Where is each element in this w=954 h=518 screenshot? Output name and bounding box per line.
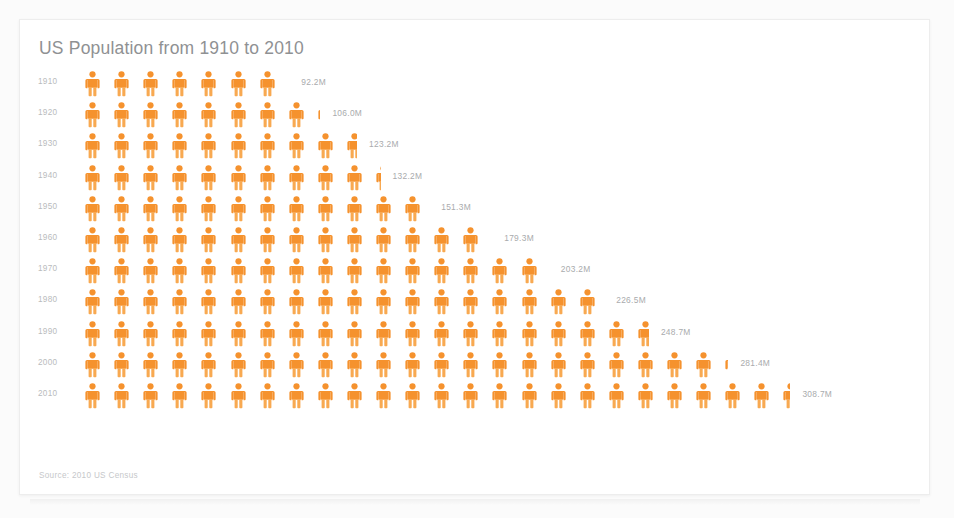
person-icon bbox=[194, 194, 223, 223]
person-icon bbox=[78, 350, 107, 379]
row-year-label: 1960 bbox=[38, 233, 80, 242]
person-icon bbox=[107, 381, 136, 410]
person-icon bbox=[631, 350, 660, 379]
row-year-label: 1940 bbox=[38, 171, 80, 180]
person-icon bbox=[224, 287, 253, 316]
person-icon bbox=[78, 131, 107, 160]
person-icon bbox=[78, 69, 107, 98]
person-icon bbox=[253, 256, 282, 285]
person-icon bbox=[165, 225, 194, 254]
person-icon bbox=[165, 287, 194, 316]
person-icon-partial bbox=[369, 163, 381, 192]
person-icon bbox=[311, 319, 340, 348]
pictogram-row: 1980226.5M bbox=[20, 286, 929, 317]
row-year-label: 2010 bbox=[38, 389, 80, 398]
person-icon bbox=[485, 350, 514, 379]
person-icon bbox=[253, 287, 282, 316]
person-icon bbox=[485, 287, 514, 316]
person-icon bbox=[544, 350, 573, 379]
person-icon bbox=[136, 163, 165, 192]
row-value-label: 281.4M bbox=[740, 358, 770, 368]
row-year-label: 1920 bbox=[38, 108, 80, 117]
person-icon bbox=[747, 381, 776, 410]
person-icon bbox=[107, 163, 136, 192]
person-icon bbox=[398, 287, 427, 316]
screenshot-canvas: US Population from 1910 to 2010 191092.2… bbox=[0, 0, 954, 518]
person-icon bbox=[78, 194, 107, 223]
person-icon bbox=[165, 131, 194, 160]
person-icon bbox=[456, 256, 485, 285]
person-icon bbox=[631, 381, 660, 410]
person-icon bbox=[369, 256, 398, 285]
person-icon bbox=[224, 100, 253, 129]
pictogram-row: 1930123.2M bbox=[20, 130, 929, 161]
person-icon bbox=[689, 381, 718, 410]
pictogram-row: 1940132.2M bbox=[20, 162, 929, 193]
person-icon bbox=[78, 256, 107, 285]
person-icon bbox=[369, 319, 398, 348]
person-icon bbox=[456, 225, 485, 254]
person-icon bbox=[427, 319, 456, 348]
person-icon bbox=[282, 194, 311, 223]
person-icon bbox=[660, 350, 689, 379]
person-icon bbox=[165, 350, 194, 379]
person-icon bbox=[282, 256, 311, 285]
person-icon bbox=[165, 100, 194, 129]
person-icon bbox=[340, 225, 369, 254]
person-icon bbox=[311, 350, 340, 379]
person-icon bbox=[427, 381, 456, 410]
person-icon bbox=[282, 163, 311, 192]
person-icon bbox=[194, 319, 223, 348]
person-icon bbox=[136, 256, 165, 285]
person-icon bbox=[660, 381, 689, 410]
row-value-label: 203.2M bbox=[561, 264, 591, 274]
person-icon-partial bbox=[282, 69, 290, 98]
person-icon-partial bbox=[718, 350, 728, 379]
person-icon bbox=[224, 225, 253, 254]
person-icon bbox=[136, 131, 165, 160]
person-icon bbox=[253, 100, 282, 129]
person-icon bbox=[602, 381, 631, 410]
person-icon-partial bbox=[427, 194, 429, 223]
person-icon bbox=[602, 350, 631, 379]
person-icon bbox=[107, 131, 136, 160]
person-icon bbox=[224, 163, 253, 192]
person-icon bbox=[340, 319, 369, 348]
row-year-label: 1990 bbox=[38, 327, 80, 336]
row-value-label: 248.7M bbox=[661, 327, 691, 337]
row-value-label: 132.2M bbox=[393, 171, 423, 181]
person-icon bbox=[544, 319, 573, 348]
person-icon bbox=[573, 381, 602, 410]
person-icon bbox=[282, 287, 311, 316]
person-icon bbox=[253, 69, 282, 98]
person-icon bbox=[165, 69, 194, 98]
person-icon bbox=[282, 100, 311, 129]
person-icon bbox=[282, 225, 311, 254]
person-icon bbox=[136, 381, 165, 410]
person-icon bbox=[515, 319, 544, 348]
person-icon bbox=[253, 194, 282, 223]
person-icon bbox=[311, 131, 340, 160]
page-title: US Population from 1910 to 2010 bbox=[39, 38, 304, 59]
person-icon bbox=[369, 381, 398, 410]
person-icon bbox=[311, 256, 340, 285]
person-icon bbox=[253, 225, 282, 254]
person-icon-partial bbox=[311, 100, 321, 129]
person-icon bbox=[224, 350, 253, 379]
row-year-label: 2000 bbox=[38, 358, 80, 367]
person-icon bbox=[253, 381, 282, 410]
person-icon bbox=[165, 319, 194, 348]
person-icon-partial bbox=[776, 381, 790, 410]
person-icon bbox=[456, 287, 485, 316]
pictogram-row: 1970203.2M bbox=[20, 255, 929, 286]
person-icon bbox=[78, 163, 107, 192]
chart-card: US Population from 1910 to 2010 191092.2… bbox=[19, 19, 930, 495]
person-icon-partial bbox=[544, 256, 549, 285]
source-note: Source: 2010 US Census bbox=[39, 471, 138, 480]
person-icon bbox=[369, 287, 398, 316]
person-icon bbox=[136, 194, 165, 223]
card-drop-shadow bbox=[30, 499, 920, 505]
person-icon bbox=[573, 319, 602, 348]
person-icon bbox=[398, 381, 427, 410]
person-icon bbox=[282, 319, 311, 348]
